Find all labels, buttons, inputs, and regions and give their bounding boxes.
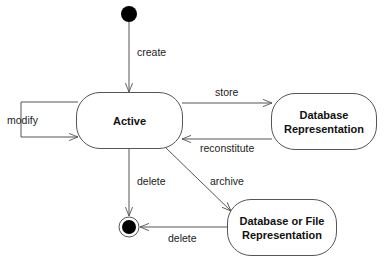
label-delete-active: delete [137, 175, 166, 187]
initial-state-node [121, 6, 137, 22]
label-modify: modify [7, 114, 38, 126]
state-active[interactable]: Active [76, 92, 183, 149]
label-create: create [137, 46, 166, 58]
final-state-inner [122, 220, 136, 234]
state-active-label: Active [113, 114, 146, 128]
label-archive: archive [210, 175, 244, 187]
state-dbfile-label-2: Representation [242, 228, 322, 242]
label-store: store [215, 86, 238, 98]
state-db-label-1: Database [300, 108, 349, 122]
state-database-or-file-representation[interactable]: Database or File Representation [227, 199, 337, 256]
state-database-representation[interactable]: Database Representation [271, 93, 377, 150]
label-delete-dbfile: delete [168, 232, 197, 244]
state-db-label-2: Representation [284, 122, 364, 136]
label-reconstitute: reconstitute [200, 142, 254, 154]
state-dbfile-label-1: Database or File [240, 214, 325, 228]
